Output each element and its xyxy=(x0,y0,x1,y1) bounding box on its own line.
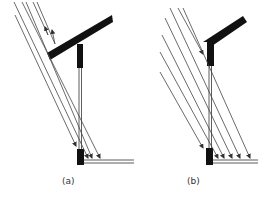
rays xyxy=(160,8,250,158)
roof-stem xyxy=(77,44,83,68)
wall-base xyxy=(77,149,84,165)
rays xyxy=(14,2,100,158)
panel-label-b: (b) xyxy=(187,176,200,186)
panel-label-a: (a) xyxy=(62,176,75,186)
panel-b xyxy=(160,8,258,165)
roof-slab xyxy=(203,16,247,46)
panel-a xyxy=(14,2,134,165)
roof-stem xyxy=(207,42,214,66)
diagram-canvas xyxy=(0,0,274,198)
wall-base xyxy=(206,148,213,165)
